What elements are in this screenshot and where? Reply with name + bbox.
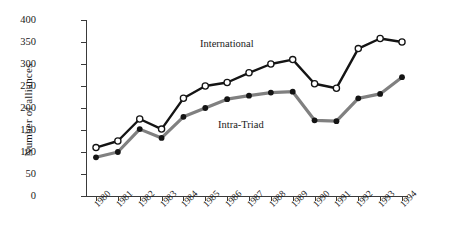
- data-point: [224, 96, 230, 102]
- data-point: [246, 93, 252, 99]
- data-point: [137, 116, 143, 122]
- data-point: [377, 91, 383, 97]
- data-point: [246, 70, 252, 76]
- data-point: [334, 118, 340, 124]
- y-tick-label: 100: [2, 147, 36, 157]
- data-point: [93, 154, 99, 160]
- data-point: [268, 61, 274, 67]
- data-point: [312, 117, 318, 123]
- data-point: [93, 145, 99, 151]
- y-tick-label: 400: [2, 15, 36, 25]
- data-point: [181, 114, 187, 120]
- data-point: [180, 95, 186, 101]
- data-point: [158, 126, 164, 132]
- y-tick-label: 250: [2, 81, 36, 91]
- data-point: [268, 90, 274, 96]
- alliances-line-chart: Number of alliances 05010015020025030035…: [0, 0, 451, 246]
- data-point: [399, 39, 405, 45]
- y-tick-label: 150: [2, 125, 36, 135]
- series-label-intra-triad: Intra-Triad: [218, 119, 264, 130]
- data-point: [290, 57, 296, 63]
- y-tick-label: 300: [2, 59, 36, 69]
- data-point: [333, 85, 339, 91]
- y-tick-label: 0: [2, 191, 36, 201]
- data-point: [399, 74, 405, 80]
- series-label-international: International: [200, 38, 254, 49]
- data-point: [377, 35, 383, 41]
- y-tick-label: 200: [2, 103, 36, 113]
- y-tick-label: 350: [2, 37, 36, 47]
- data-point: [159, 135, 165, 141]
- data-point: [311, 81, 317, 87]
- data-point: [202, 105, 208, 111]
- y-tick-label: 50: [2, 169, 36, 179]
- data-point: [202, 83, 208, 89]
- data-point: [224, 79, 230, 85]
- data-point: [115, 138, 121, 144]
- data-point: [355, 46, 361, 52]
- data-point: [355, 95, 361, 101]
- data-point: [290, 89, 296, 95]
- data-point: [115, 149, 121, 155]
- data-point: [137, 126, 143, 132]
- y-tick: [81, 196, 86, 197]
